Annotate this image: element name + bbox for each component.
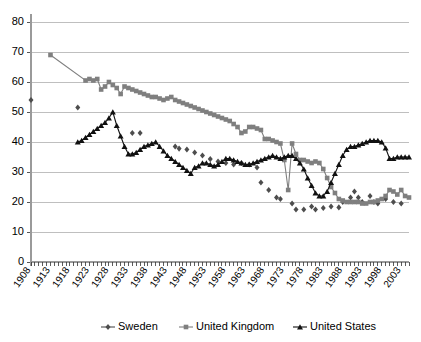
data-point-marker <box>243 129 248 134</box>
data-point-marker <box>184 325 189 330</box>
x-axis-tick-label: 1973 <box>264 264 286 289</box>
series-united-states <box>75 109 412 198</box>
data-point-marker <box>278 196 283 202</box>
data-point-marker <box>329 203 334 209</box>
data-point-marker <box>368 193 373 199</box>
data-point-marker <box>321 167 326 172</box>
data-point-marker <box>184 146 189 152</box>
x-axis-tick-label: 1908 <box>11 264 33 289</box>
data-point-marker <box>114 86 119 91</box>
data-point-marker <box>309 203 314 209</box>
x-axis-tick-label: 1993 <box>342 264 364 289</box>
data-point-marker <box>312 190 318 195</box>
data-point-marker <box>309 183 315 188</box>
data-point-marker <box>192 149 197 155</box>
data-point-marker <box>114 123 120 128</box>
data-point-marker <box>383 194 388 199</box>
data-point-marker <box>407 195 412 200</box>
data-point-marker <box>324 189 330 194</box>
data-point-marker <box>266 187 271 193</box>
data-point-marker <box>138 130 143 136</box>
data-point-marker <box>235 125 240 130</box>
x-axis-tick-label: 1938 <box>128 264 150 289</box>
data-point-marker <box>348 194 353 200</box>
data-point-marker <box>29 97 34 103</box>
y-axis-tick-label: 80 <box>12 15 24 27</box>
data-point-marker <box>313 206 318 212</box>
y-axis-tick-label: 40 <box>12 135 24 147</box>
legend-label-united-states: United States <box>310 320 377 332</box>
data-point-marker <box>200 152 205 158</box>
x-axis-tick-label: 1923 <box>69 264 91 289</box>
legend-label-sweden: Sweden <box>118 320 158 332</box>
data-point-marker <box>118 133 124 138</box>
data-point-marker <box>352 188 357 194</box>
data-point-marker <box>75 104 80 110</box>
data-point-marker <box>118 92 123 97</box>
x-axis-tick-label: 1943 <box>147 264 169 289</box>
data-point-marker <box>106 324 111 330</box>
data-point-marker <box>321 205 326 211</box>
x-axis-tick-label: 2003 <box>381 264 403 289</box>
data-point-marker <box>356 194 361 200</box>
data-point-marker <box>333 191 338 196</box>
data-point-marker <box>270 153 276 158</box>
x-axis-tick-label: 1978 <box>284 264 306 289</box>
x-axis-tick-label: 1963 <box>225 264 247 289</box>
line-chart: 0102030405060708019081913191819231928193… <box>0 0 421 342</box>
legend-label-united-kingdom: United Kingdom <box>196 320 274 332</box>
data-point-marker <box>106 115 112 120</box>
x-axis-tick-label: 1933 <box>108 264 130 289</box>
x-axis-tick-label: 1968 <box>245 264 267 289</box>
data-point-marker <box>290 141 295 146</box>
data-point-marker <box>278 141 283 146</box>
data-point-marker <box>301 206 306 212</box>
data-point-marker <box>305 175 311 180</box>
x-axis-tick-label: 1953 <box>186 264 208 289</box>
data-point-marker <box>258 179 263 185</box>
series-united-kingdom <box>48 53 411 206</box>
x-axis-tick-label: 1998 <box>362 264 384 289</box>
data-point-marker <box>293 206 298 212</box>
data-point-marker <box>274 194 279 200</box>
data-point-marker <box>399 200 404 206</box>
x-axis-tick-label: 1958 <box>206 264 228 289</box>
data-point-marker <box>336 204 341 210</box>
series-line <box>50 55 409 204</box>
data-point-marker <box>130 130 135 136</box>
data-point-marker <box>259 128 264 133</box>
data-point-marker <box>325 176 330 181</box>
y-axis-tick-label: 70 <box>12 45 24 57</box>
y-axis-tick-label: 30 <box>12 165 24 177</box>
data-point-marker <box>301 166 307 171</box>
y-axis-tick-label: 60 <box>12 75 24 87</box>
data-point-marker <box>294 152 299 157</box>
data-point-marker <box>208 156 213 162</box>
y-axis-tick-label: 20 <box>12 195 24 207</box>
x-axis-tick-label: 1988 <box>323 264 345 289</box>
data-point-marker <box>48 53 53 58</box>
data-point-marker <box>395 192 400 197</box>
chart-container: 0102030405060708019081913191819231928193… <box>0 0 421 342</box>
data-point-marker <box>103 84 108 89</box>
data-point-marker <box>383 145 389 150</box>
data-point-marker <box>399 188 404 193</box>
data-point-marker <box>340 153 346 158</box>
data-point-marker <box>122 144 128 149</box>
y-axis-tick-label: 10 <box>12 225 24 237</box>
data-point-marker <box>336 162 342 167</box>
x-axis-tick-label: 1928 <box>89 264 111 289</box>
data-point-marker <box>317 161 322 166</box>
data-point-marker <box>286 188 291 193</box>
y-axis-tick-label: 50 <box>12 105 24 117</box>
data-point-marker <box>332 171 338 176</box>
x-axis-tick-label: 1913 <box>30 264 52 289</box>
x-axis-tick-label: 1948 <box>167 264 189 289</box>
x-axis-tick-label: 1983 <box>303 264 325 289</box>
data-point-marker <box>290 200 295 206</box>
data-point-marker <box>391 199 396 205</box>
x-axis-tick-label: 1918 <box>50 264 72 289</box>
data-point-marker <box>95 77 100 82</box>
